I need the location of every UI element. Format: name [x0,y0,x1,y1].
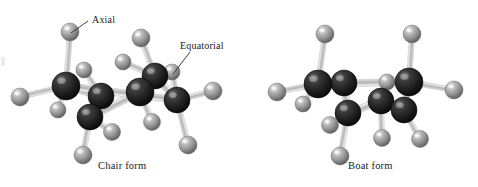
molecular-models-figure: Axial Equatorial Chair form Boat form [0,0,478,187]
boat-form-caption: Boat form [348,160,393,171]
boat-carbon-B6 [395,68,423,96]
boat-hydrogen-HB-eq-b4-up [379,74,395,90]
chair-hydrogen-H-eq-left [11,88,29,106]
boat-hydrogen-HB-ax-b3-down [331,147,349,165]
boat-hydrogen-HB-eq-right [445,81,463,99]
chair-hydrogen-H-eq-c5 [115,54,131,70]
boat-hydrogen-HB-ax-b5-down [412,131,429,148]
boat-hydrogen-HB-ax-b4-down [374,130,391,147]
molecule-scene [0,0,478,187]
boat-hydrogen-HB-ax-right-up [403,25,421,43]
chair-hydrogen-H-ax-c5-up [132,29,150,47]
boat-carbon-B4 [368,88,394,114]
equatorial-label: Equatorial [180,40,224,51]
chair-form-caption: Chair form [98,160,146,171]
chair-hydrogen-H-eq-c4 [144,114,161,131]
boat-carbon-B2 [331,70,357,96]
chair-hydrogen-H-eq-lower-left [50,102,66,118]
boat-carbon-B3 [335,100,361,126]
chair-hydrogen-H-eq-c2 [76,62,92,78]
atom-layer [11,23,463,165]
chair-hydrogen-H-eq-c6-right [204,82,222,100]
boat-hydrogen-HB-eq-lowleft [295,96,311,112]
axial-label: Axial [92,14,115,25]
boat-hydrogen-HB-ax-left-up [316,25,334,43]
chair-hydrogen-H-ax-c6-down [179,136,197,154]
boat-carbon-B1 [304,70,332,98]
equatorial-leader-line [173,52,190,74]
chair-carbon-C3 [77,104,103,130]
chair-carbon-C1 [52,72,80,100]
boat-carbon-B5 [391,97,417,123]
chair-carbon-C6 [164,87,190,113]
chair-hydrogen-H-axial-up-left [61,23,79,41]
chair-carbon-C4 [126,78,154,106]
boat-hydrogen-HB-eq-left [268,83,286,101]
chair-hydrogen-H-eq-c3 [104,124,121,141]
chair-hydrogen-H-ax-c3-down [74,146,92,164]
boat-hydrogen-HB-eq-b3-left [322,117,339,134]
